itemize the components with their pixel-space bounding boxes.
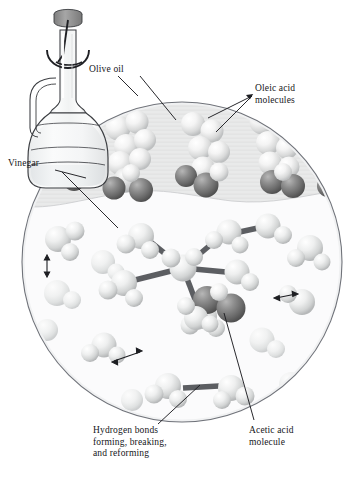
water-molecule (121, 389, 143, 411)
leader-olive-oil-a (118, 76, 138, 96)
vinegar-layer (31, 165, 105, 186)
illustration-canvas (0, 0, 348, 480)
molecular-illustration: Olive oil Vinegar Oleic acid molecules H… (0, 0, 348, 480)
oil-and-vinegar-cruet (28, 9, 108, 188)
magnified-view (0, 0, 348, 480)
oleic-acid-molecule (103, 111, 157, 203)
oil-layer (31, 125, 105, 165)
